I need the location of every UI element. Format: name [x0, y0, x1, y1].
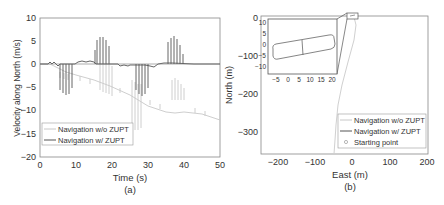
- ytick: −300: [238, 127, 258, 137]
- ytick: −15: [21, 129, 36, 139]
- inset-xtick: 20: [328, 76, 336, 83]
- ytick: −10: [21, 105, 36, 115]
- ytick: −100: [238, 51, 258, 61]
- inset-xtick: −5: [272, 76, 280, 83]
- zoom-region-box: [347, 13, 358, 19]
- legend-a: Navigation w/o ZUPT Navigation w/ ZUPT: [42, 123, 133, 145]
- ytick: 0: [31, 59, 36, 69]
- legend-item-starting-point: Starting point: [354, 138, 399, 147]
- y-axis-label-a: Velocity along North (m/s): [12, 39, 22, 136]
- ytick: 5: [31, 36, 36, 46]
- panel-a: 10 5 0 −5 −10 −15 −20 0 10 20 30 40 50: [12, 13, 225, 195]
- y-axis-label-b: North (m): [224, 66, 234, 104]
- panel-a-yticks: 10 5 0 −5 −10 −15 −20: [21, 13, 36, 162]
- inset-xtick: 5: [297, 76, 301, 83]
- ytick: −5: [26, 82, 36, 92]
- xtick: 30: [143, 160, 153, 170]
- panel-label-a: (a): [124, 184, 136, 195]
- xtick: 0: [349, 157, 354, 167]
- legend-item-with-zupt: Navigation w/ ZUPT: [58, 136, 125, 145]
- panel-b-yticks: 0 −100 −200 −300: [238, 13, 258, 137]
- ytick: −200: [238, 89, 258, 99]
- xtick: 200: [419, 157, 434, 167]
- x-axis-label-b: East (m): [332, 169, 368, 180]
- ytick: 0: [253, 13, 258, 23]
- xtick: 20: [107, 160, 117, 170]
- panel-b: 0 −100 −200 −300 −200 −100 0 100 200 10 …: [224, 13, 435, 192]
- panel-a-xticks: 0 10 20 30 40 50: [37, 160, 225, 170]
- ytick: 10: [26, 13, 36, 23]
- inset-xtick: 15: [317, 76, 325, 83]
- inset-xtick: 0: [286, 76, 290, 83]
- legend-item-without-zupt: Navigation w/o ZUPT: [354, 116, 425, 125]
- panel-b-xticks: −200 −100 0 100 200: [268, 157, 435, 167]
- x-axis-label-a: Time (s): [113, 172, 147, 183]
- xtick: 100: [382, 157, 397, 167]
- xtick: 0: [37, 160, 42, 170]
- inset-ytick: −10: [255, 63, 266, 70]
- inset-ytick: −5: [259, 52, 267, 59]
- xtick: −200: [268, 157, 288, 167]
- xtick: −100: [305, 157, 325, 167]
- legend-b: Navigation w/o ZUPT Navigation w/ ZUPT S…: [338, 114, 426, 148]
- inset-ytick: 5: [262, 30, 266, 37]
- panel-label-b: (b): [344, 181, 356, 192]
- inset-xtick: 10: [306, 76, 314, 83]
- figure: 10 5 0 −5 −10 −15 −20 0 10 20 30 40 50: [0, 0, 444, 205]
- ytick: −20: [21, 152, 36, 162]
- xtick: 40: [179, 160, 189, 170]
- legend-item-with-zupt: Navigation w/ ZUPT: [354, 127, 421, 136]
- inset-ytick: 10: [259, 19, 267, 26]
- legend-item-without-zupt: Navigation w/o ZUPT: [58, 125, 129, 134]
- xtick: 10: [71, 160, 81, 170]
- inset-ytick: 0: [262, 41, 266, 48]
- xtick: 50: [215, 160, 225, 170]
